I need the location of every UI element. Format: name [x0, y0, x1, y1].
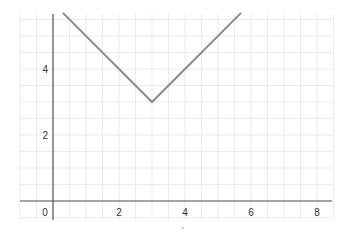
y-tick-labels: 24	[42, 64, 48, 141]
x-tick-label: 8	[314, 207, 320, 218]
x-tick-label: 6	[248, 207, 254, 218]
x-tick-label: 0	[42, 207, 48, 218]
stray-dot	[182, 227, 184, 229]
y-tick-label: 4	[42, 64, 48, 75]
plot-area: 02468 24	[0, 0, 347, 236]
grid-lines	[20, 14, 334, 220]
x-tick-label: 2	[116, 207, 122, 218]
y-tick-label: 2	[42, 130, 48, 141]
x-tick-labels: 02468	[42, 207, 320, 218]
x-tick-label: 4	[182, 207, 188, 218]
